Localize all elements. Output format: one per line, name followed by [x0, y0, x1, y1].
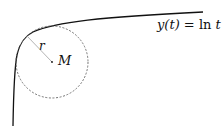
equation-function: ln — [199, 17, 212, 32]
center-label: M — [58, 54, 71, 67]
equation-lhs: y(t) — [157, 17, 180, 32]
radius-label: r — [39, 40, 45, 52]
curve-equation-label: y(t) = ln t — [157, 18, 221, 31]
equation-arg: t — [211, 17, 220, 32]
center-point — [51, 61, 53, 63]
equation-equals: = — [180, 17, 199, 32]
